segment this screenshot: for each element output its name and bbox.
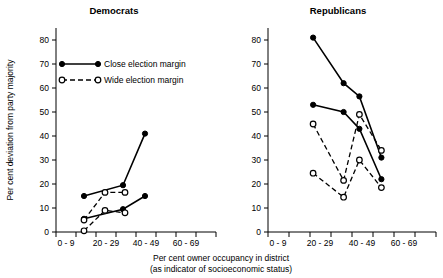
y-tick-label: 10: [40, 203, 50, 213]
y-tick-label: 70: [40, 59, 50, 69]
y-tick-label: 60: [252, 83, 262, 93]
legend-marker-wide-end: [95, 77, 101, 83]
panel-title-republicans: Republicans: [310, 5, 367, 16]
data-point-marker: [379, 155, 384, 160]
y-tick-label: 10: [252, 203, 262, 213]
data-point-marker: [122, 210, 128, 216]
x-tick-label: 0 - 9: [57, 238, 74, 248]
x-tick-label: 60 - 69: [173, 238, 200, 248]
data-point-marker: [379, 148, 385, 154]
data-point-marker: [81, 217, 87, 223]
y-ticks-democrats: [52, 40, 56, 232]
x-axis-label-line2: (as indicator of socioeconomic status): [150, 264, 292, 274]
y-tick-label: 0: [44, 227, 49, 237]
series-line: [313, 38, 381, 158]
x-tick-label: 60 - 69: [391, 238, 418, 248]
data-point-marker: [357, 126, 362, 131]
data-point-marker: [310, 170, 316, 176]
y-tick-labels-democrats: 0 10 20 30 40 50 60 70 80: [40, 35, 50, 237]
x-tick-labels-republicans: 0 - 9 20 - 29 40 - 49 60 - 69: [269, 238, 417, 248]
axes-republicans: 0 10 20 30 40 50 60 70 80: [252, 28, 436, 248]
x-tick-label: 20 - 29: [93, 238, 120, 248]
y-axis-label-democrats: Per cent deviation from party majority: [5, 59, 15, 201]
y-tick-label: 80: [252, 35, 262, 45]
y-tick-label: 40: [252, 131, 262, 141]
series-group-republicans: [310, 35, 384, 200]
data-point-marker: [311, 35, 316, 40]
x-axis-label-line1: Per cent owner occupancy in district: [153, 253, 290, 263]
legend-marker-wide-start: [59, 77, 65, 83]
data-point-marker: [81, 193, 86, 198]
data-point-marker: [122, 190, 128, 196]
y-tick-label: 30: [40, 155, 50, 165]
legend-marker-close-start: [59, 61, 64, 66]
x-tick-label: 40 - 49: [349, 238, 376, 248]
x-tick-label: 40 - 49: [133, 238, 160, 248]
x-tick-labels-democrats: 0 - 9 20 - 29 40 - 49 60 - 69: [57, 238, 199, 248]
y-tick-label: 80: [40, 35, 50, 45]
y-tick-label: 50: [252, 107, 262, 117]
data-point-marker: [357, 112, 363, 118]
data-point-marker: [102, 208, 108, 214]
data-point-marker: [142, 193, 147, 198]
axis-lines-republicans: [268, 28, 436, 232]
data-point-marker: [341, 178, 347, 184]
data-point-marker: [310, 121, 316, 127]
data-point-marker: [379, 185, 385, 191]
data-point-marker: [357, 94, 362, 99]
series-line: [84, 192, 125, 220]
x-ticks-republicans: [268, 232, 436, 237]
legend-label-wide-election-margin: Wide election margin: [104, 75, 184, 85]
legend-label-close-election-margin: Close election margin: [104, 59, 186, 69]
data-point-marker: [102, 190, 108, 196]
x-ticks-democrats: [56, 232, 216, 237]
x-tick-label: 20 - 29: [307, 238, 334, 248]
y-tick-labels-republicans: 0 10 20 30 40 50 60 70 80: [252, 35, 262, 237]
data-point-marker: [81, 228, 87, 234]
data-point-marker: [341, 194, 347, 200]
data-point-marker: [341, 81, 346, 86]
data-point-marker: [311, 102, 316, 107]
series-group-democrats: [81, 131, 147, 234]
data-point-marker: [379, 177, 384, 182]
data-point-marker: [120, 183, 125, 188]
series-line: [84, 134, 145, 196]
panel-democrats: Democrats Per cent deviation from party …: [5, 5, 216, 248]
data-point-marker: [341, 109, 346, 114]
y-tick-label: 20: [40, 179, 50, 189]
panel-title-democrats: Democrats: [89, 5, 138, 16]
series-line: [313, 160, 381, 197]
x-tick-label: 0 - 9: [269, 238, 286, 248]
y-ticks-republicans: [264, 40, 268, 232]
panel-republicans: Republicans 0 10 20: [252, 5, 436, 248]
series-line: [84, 196, 145, 219]
y-tick-label: 40: [40, 131, 50, 141]
y-tick-label: 60: [40, 83, 50, 93]
chart-legend: Close election margin Wide election marg…: [59, 59, 186, 85]
y-tick-label: 20: [252, 179, 262, 189]
data-point-marker: [142, 131, 147, 136]
y-tick-label: 30: [252, 155, 262, 165]
data-point-marker: [357, 157, 363, 163]
y-tick-label: 0: [256, 227, 261, 237]
two-panel-line-chart: Democrats Per cent deviation from party …: [0, 0, 443, 278]
y-tick-label: 50: [40, 107, 50, 117]
figure-container: Democrats Per cent deviation from party …: [0, 0, 443, 278]
legend-marker-close-end: [95, 61, 100, 66]
y-tick-label: 70: [252, 59, 262, 69]
series-line: [313, 114, 381, 180]
